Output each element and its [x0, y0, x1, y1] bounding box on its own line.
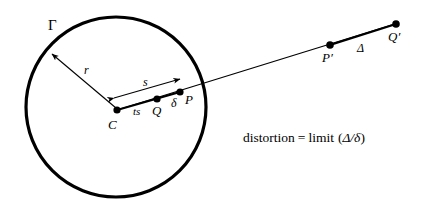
label-point-p-prime: P′ — [322, 51, 333, 64]
diagram-canvas — [0, 0, 424, 219]
label-big-delta: Δ — [357, 42, 364, 54]
label-point-q-prime: Q′ — [388, 30, 400, 43]
label-radius-r: r — [84, 64, 89, 76]
label-point-q: Q — [152, 104, 161, 117]
point-p-prime-dot — [326, 41, 334, 49]
distortion-formula: distortion=limit(Δ/δ) — [243, 130, 365, 146]
point-p-dot — [176, 88, 183, 95]
point-q-dot — [153, 95, 160, 102]
formula-close-paren: ) — [360, 130, 365, 145]
point-q-prime-dot — [392, 20, 400, 28]
distortion-diagram: Γ r s ts C Q δ P P′ Δ Q′ distortion=limi… — [0, 0, 424, 219]
formula-equals: = — [295, 130, 309, 145]
formula-operator: limit — [308, 130, 334, 145]
label-point-p: P — [185, 93, 193, 106]
label-arc-s: s — [143, 76, 148, 88]
label-gamma: Γ — [48, 18, 57, 33]
label-ts: ts — [133, 106, 140, 117]
label-point-c: C — [108, 118, 117, 131]
label-delta: δ — [171, 97, 177, 109]
formula-lhs: distortion — [243, 130, 295, 145]
point-c-dot — [113, 106, 120, 113]
